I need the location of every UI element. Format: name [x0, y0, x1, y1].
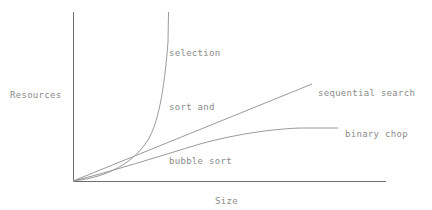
annotation-line-2: sort and: [169, 98, 232, 116]
annotation-line-1: selection: [169, 44, 232, 62]
annotation-sequential-search: sequential search: [318, 84, 415, 102]
annotation-line-3: bubble sort: [169, 152, 232, 170]
complexity-chart: selection sort and bubble sort sequentia…: [0, 0, 432, 210]
annotation-selection-bubble-sort: selection sort and bubble sort: [169, 8, 232, 206]
annotation-binary-chop: binary chop: [345, 125, 408, 143]
x-axis-label: Size: [215, 192, 238, 210]
curve-selection-bubble-sort: [73, 12, 169, 181]
y-axis-label: Resources: [10, 86, 61, 104]
